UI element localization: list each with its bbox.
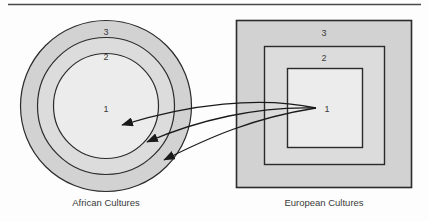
caption-african-cultures: African Cultures bbox=[72, 197, 140, 208]
ring-label-1: 1 bbox=[103, 104, 108, 114]
ring-label-3: 3 bbox=[103, 27, 108, 37]
european-cultures-group: 3 2 1 European Cultures bbox=[237, 21, 412, 209]
diagram-canvas: 3 2 1 African Cultures 3 2 1 European Cu… bbox=[0, 0, 429, 221]
caption-european-cultures: European Cultures bbox=[284, 197, 363, 208]
figure-root: 3 2 1 African Cultures 3 2 1 European Cu… bbox=[0, 0, 429, 221]
box-label-2: 2 bbox=[321, 53, 326, 63]
ring-label-2: 2 bbox=[103, 52, 108, 62]
box-label-3: 3 bbox=[321, 28, 326, 38]
box-label-1: 1 bbox=[324, 104, 329, 114]
african-cultures-group: 3 2 1 African Cultures bbox=[21, 21, 192, 209]
